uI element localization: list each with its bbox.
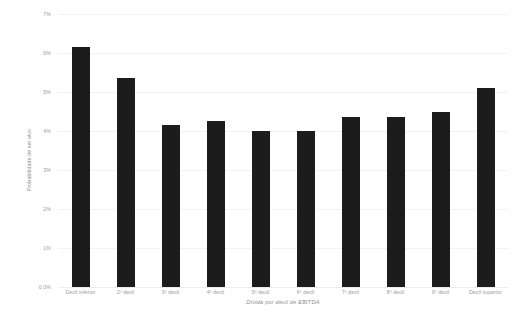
bar-chart: 0.0%1%2%3%4%5%6%7% Decil inferior2º deci… [0, 0, 513, 320]
x-axis-tick-label: Decil superior [469, 289, 502, 295]
y-axis-tick-label: 2% [43, 206, 51, 212]
bar-slot [373, 14, 418, 287]
y-axis-title: Probabilidade de ser alvo [20, 0, 38, 320]
x-axis-title: Dívida por decil de EBITDA [58, 299, 508, 305]
bar[interactable] [72, 47, 90, 287]
x-axis-tick-label: 6º decil [297, 289, 315, 295]
bar[interactable] [387, 117, 405, 287]
bar-slot [463, 14, 508, 287]
y-axis-tick-label: 0.0% [39, 284, 51, 290]
y-axis-tick-label: 5% [43, 89, 51, 95]
y-axis-tick-label: 7% [43, 11, 51, 17]
bar[interactable] [207, 121, 225, 287]
bar[interactable] [162, 125, 180, 287]
bar-slot [238, 14, 283, 287]
bar-slot [193, 14, 238, 287]
y-axis-tick-label: 1% [43, 245, 51, 251]
x-axis-tick-label: 4º decil [207, 289, 225, 295]
bar-slot [418, 14, 463, 287]
gridline [58, 287, 508, 288]
bar-slot [283, 14, 328, 287]
y-axis-tick-label: 3% [43, 167, 51, 173]
x-axis-tick-label: Decil inferior [65, 289, 95, 295]
x-axis-tick-label: 2º decil [117, 289, 135, 295]
bar-slot [103, 14, 148, 287]
x-axis-tick-label: 3º decil [162, 289, 180, 295]
bar[interactable] [477, 88, 495, 287]
bar-slot [58, 14, 103, 287]
bar[interactable] [252, 131, 270, 287]
bar[interactable] [117, 78, 135, 287]
bar-slot [148, 14, 193, 287]
plot-area [58, 14, 508, 287]
bar[interactable] [342, 117, 360, 287]
x-axis-tick-label: 8º decil [387, 289, 405, 295]
bar[interactable] [297, 131, 315, 287]
y-axis-tick-label: 4% [43, 128, 51, 134]
bar-slot [328, 14, 373, 287]
x-axis-tick-label: 7º decil [342, 289, 360, 295]
y-axis-tick-label: 6% [43, 50, 51, 56]
x-axis-tick-label: 5º decil [252, 289, 270, 295]
bar[interactable] [432, 112, 450, 288]
x-axis-tick-label: 9º decil [432, 289, 450, 295]
